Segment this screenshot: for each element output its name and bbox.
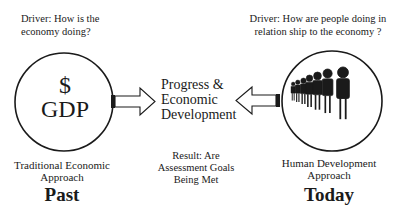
center-goal-line-2: Economic — [161, 92, 261, 107]
result-question: Result: Are Assessment Goals Being Met — [146, 150, 246, 186]
center-goal-line-3: Development — [161, 107, 261, 122]
right-arrow-icon — [111, 88, 155, 115]
gdp-label: GDP — [15, 97, 115, 121]
left-driver-question: Driver: How is the economy doing? — [21, 12, 131, 38]
center-goal-line-1: Progress & — [161, 77, 261, 92]
left-approach-line-2: Approach — [2, 171, 122, 183]
era-past-label: Past — [12, 185, 112, 205]
right-approach-line-1: Human Development — [264, 157, 394, 169]
right-driver-line-1: Driver: How are people doing in — [240, 12, 396, 25]
left-approach-line-1: Traditional Economic — [2, 159, 122, 171]
right-driver-question: Driver: How are people doing in relation… — [240, 12, 396, 38]
result-line-2: Assessment Goals — [146, 162, 246, 174]
right-driver-line-2: relation ship to the economy ? — [240, 25, 396, 38]
left-driver-line-1: Driver: How is the — [21, 12, 131, 25]
result-line-1: Result: Are — [146, 150, 246, 162]
dollar-icon: $ — [15, 73, 115, 97]
left-approach-label: Traditional Economic Approach — [2, 159, 122, 183]
right-approach-line-2: Approach — [264, 169, 394, 181]
left-driver-line-2: economy doing? — [21, 25, 131, 38]
right-approach-label: Human Development Approach — [264, 157, 394, 181]
result-line-3: Being Met — [146, 174, 246, 186]
era-today-label: Today — [279, 185, 379, 205]
center-goal: Progress & Economic Development — [161, 77, 261, 122]
people-queue-icon — [291, 67, 349, 119]
